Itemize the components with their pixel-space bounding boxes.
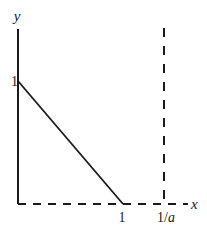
line-segment: [18, 81, 123, 204]
inv-a-prefix: 1/: [157, 210, 168, 225]
x-tick-label-1: 1: [119, 210, 126, 225]
diagram: y x 1 1 1/a: [0, 0, 207, 232]
x-tick-label-inv-a: 1/a: [157, 210, 175, 225]
inv-a-var: a: [168, 210, 175, 225]
y-axis-label: y: [12, 8, 21, 24]
x-axis-label: x: [190, 196, 198, 212]
y-tick-label-1: 1: [11, 74, 18, 89]
